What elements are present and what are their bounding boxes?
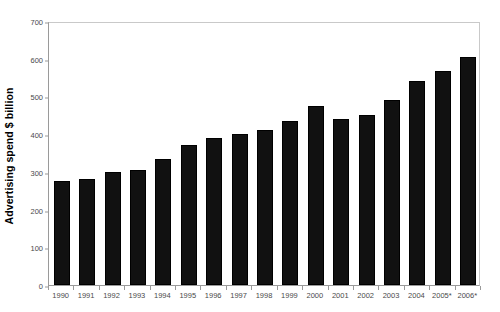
x-tick-label: 1996 [200, 292, 225, 300]
bar [54, 181, 70, 285]
x-tick-label: 1992 [99, 292, 124, 300]
bar-slot [252, 23, 277, 285]
x-tick-label: 2006* [455, 292, 480, 300]
x-tick-label: 1995 [175, 292, 200, 300]
x-tick-label: 2005* [429, 292, 454, 300]
x-tick-label: 2004 [404, 292, 429, 300]
bar-slot [329, 23, 354, 285]
x-tick-label: 2003 [378, 292, 403, 300]
x-tick-label: 1990 [48, 292, 73, 300]
bar-slot [278, 23, 303, 285]
x-tick-label: 2002 [353, 292, 378, 300]
x-tick-mark [200, 286, 201, 290]
bar-slot [379, 23, 404, 285]
y-axis-title: Advertising spend $ billion [0, 0, 18, 312]
x-tick-label: 1993 [124, 292, 149, 300]
bar-slot [201, 23, 226, 285]
bar [384, 100, 400, 285]
bar-slot [151, 23, 176, 285]
x-tick-mark [251, 286, 252, 290]
x-tick-mark [404, 286, 405, 290]
bar-slot [49, 23, 74, 285]
chart-figure: Advertising spend $ billion 010020030040… [0, 0, 500, 312]
x-tick-mark [226, 286, 227, 290]
x-tick-mark [455, 286, 456, 290]
bar [409, 81, 425, 285]
bar-slot [405, 23, 430, 285]
x-tick-mark [353, 286, 354, 290]
bar [232, 134, 248, 285]
bar [308, 106, 324, 285]
x-tick-label: 1994 [150, 292, 175, 300]
bar [460, 57, 476, 285]
bar [155, 159, 171, 285]
bar-slot [354, 23, 379, 285]
plot-area: 0100200300400500600700 [48, 22, 480, 286]
x-tick-mark [302, 286, 303, 290]
x-tick-label: 1998 [251, 292, 276, 300]
bar-slot [430, 23, 455, 285]
bar [105, 172, 121, 285]
x-tick-label: 1999 [277, 292, 302, 300]
x-tick-label: 1997 [226, 292, 251, 300]
x-tick-mark [99, 286, 100, 290]
x-tick-mark [175, 286, 176, 290]
x-tick-mark [150, 286, 151, 290]
bar [282, 121, 298, 285]
x-tick-mark [429, 286, 430, 290]
x-tick-label: 1991 [73, 292, 98, 300]
bar-slot [74, 23, 99, 285]
bar [333, 119, 349, 285]
x-tick-mark [480, 286, 481, 290]
bar-slot [456, 23, 481, 285]
bar-series [49, 23, 479, 285]
x-tick-mark [328, 286, 329, 290]
x-tick-label: 2000 [302, 292, 327, 300]
x-tick-mark [48, 286, 49, 290]
bar [206, 138, 222, 285]
bar [79, 179, 95, 285]
bar-slot [227, 23, 252, 285]
bar [181, 145, 197, 285]
bar [359, 115, 375, 285]
bar-slot [125, 23, 150, 285]
x-tick-mark [378, 286, 379, 290]
bar [435, 71, 451, 285]
x-tick-mark [277, 286, 278, 290]
bar [130, 170, 146, 285]
x-tick-mark [124, 286, 125, 290]
bar-slot [303, 23, 328, 285]
x-tick-mark [73, 286, 74, 290]
bar [257, 130, 273, 285]
x-tick-label: 2001 [328, 292, 353, 300]
bar-slot [100, 23, 125, 285]
bar-slot [176, 23, 201, 285]
